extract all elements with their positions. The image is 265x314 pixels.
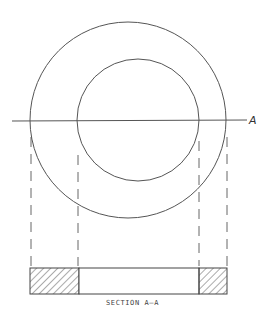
- section-view: [30, 268, 227, 294]
- technical-drawing: [0, 0, 265, 314]
- projection-lines: [31, 137, 227, 266]
- section-hole: [79, 268, 199, 294]
- section-hatch-left: [30, 268, 79, 294]
- cutting-plane-label: A: [249, 114, 257, 127]
- section-hatch-right: [199, 268, 227, 294]
- section-caption: SECTION A–A: [0, 299, 265, 307]
- cutting-plane-line: [12, 120, 247, 121]
